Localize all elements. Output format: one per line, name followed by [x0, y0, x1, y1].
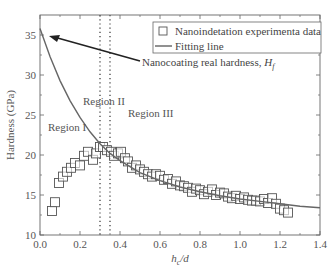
x-tick-label: 1.4	[313, 238, 327, 250]
svg-text:Nanoindetation experimenta dat: Nanoindetation experimenta data	[175, 25, 321, 37]
svg-text:Fitting line: Fitting line	[175, 40, 224, 52]
svg-text:Nanocoating real hardness, Hf: Nanocoating real hardness, Hf	[142, 56, 276, 71]
y-tick-label: 25	[25, 109, 37, 121]
x-tick-label: 0.6	[153, 238, 167, 250]
region-1-label: Region I	[48, 121, 87, 133]
legend: Nanoindetation experimenta data Fitting …	[153, 22, 321, 53]
y-tick-label: 35	[25, 29, 37, 41]
x-tick-label: 1.0	[233, 238, 247, 250]
x-tick-label: 0.8	[193, 238, 207, 250]
region-3-label: Region III	[128, 107, 174, 119]
region-2-label: Region II	[83, 95, 125, 107]
hardness-chart: 0.00.20.40.60.81.01.21.4101520253035 Har…	[0, 0, 333, 277]
data-point-square	[51, 198, 60, 207]
x-tick-label: 0.2	[73, 238, 87, 250]
data-point-square	[284, 208, 293, 217]
y-tick-label: 15	[25, 189, 37, 201]
data-point-square	[48, 207, 57, 216]
x-tick-label: 0.4	[113, 238, 127, 250]
y-tick-label: 20	[25, 149, 37, 161]
arrowhead-icon	[49, 35, 60, 42]
y-tick-label: 30	[25, 69, 37, 81]
y-axis-title: Hardness (GPa)	[4, 90, 17, 160]
x-axis-title: hc/d	[171, 252, 189, 267]
y-tick-label: 10	[25, 229, 37, 241]
data-point-square	[76, 161, 85, 170]
x-tick-label: 1.2	[273, 238, 287, 250]
